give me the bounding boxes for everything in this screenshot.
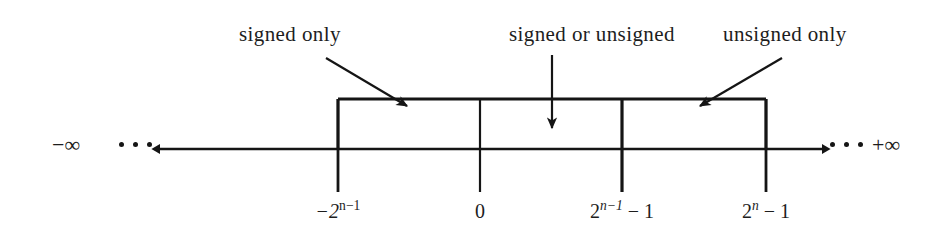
ellipsis-dots-right	[830, 142, 863, 147]
ellipsis-dots-left	[119, 142, 152, 147]
tick-base-max-unsigned: 2	[742, 200, 752, 222]
ellipsis-dot	[844, 142, 849, 147]
tick-exponent-max-signed: n−1	[600, 198, 623, 213]
ellipsis-dot	[858, 142, 863, 147]
tick-base-zero: 0	[475, 200, 485, 222]
tick-exponent-min-signed: n−1	[339, 198, 360, 213]
ellipsis-dot	[119, 142, 124, 147]
tick-base-min-signed: −2	[316, 200, 340, 222]
tick-label-max-unsigned: 2n − 1	[742, 200, 790, 223]
tick-base-max-signed: 2	[590, 200, 600, 222]
callout-label-unsigned-only: unsigned only	[723, 22, 847, 47]
tick-suffix-max-signed: − 1	[623, 200, 654, 222]
ellipsis-dot	[147, 142, 152, 147]
ellipsis-dot	[830, 142, 835, 147]
callout-label-signed-only: signed only	[239, 22, 341, 47]
endpoint-label-positive-infinity: +∞	[872, 132, 900, 158]
tick-label-max-signed: 2n−1 − 1	[590, 200, 654, 223]
callout-arrows	[326, 55, 782, 128]
figure-canvas: signed only signed or unsigned unsigned …	[0, 0, 950, 250]
tick-exponent-max-unsigned: n	[752, 198, 759, 213]
tick-suffix-max-unsigned: − 1	[759, 200, 790, 222]
callout-label-signed-or-unsigned: signed or unsigned	[509, 22, 675, 47]
tick-label-zero: 0	[475, 200, 485, 223]
endpoint-label-negative-infinity: −∞	[52, 132, 80, 158]
tick-label-min-signed: −2n−1	[316, 200, 361, 223]
ellipsis-dot	[133, 142, 138, 147]
